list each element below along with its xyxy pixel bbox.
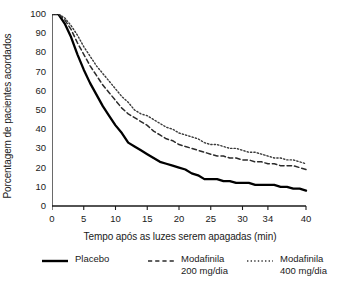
y-axis-tick-label: 60 (24, 85, 46, 96)
x-axis-tick-label: 40 (294, 213, 318, 224)
y-axis-tick-label: 10 (24, 181, 46, 192)
x-axis-tick-label: 30 (231, 213, 255, 224)
chart-plot-svg (52, 14, 310, 212)
x-axis-tick-label: 0 (40, 213, 64, 224)
axes-group (52, 14, 306, 210)
y-axis-tick-label: 70 (24, 66, 46, 77)
legend-entry-modafinil-200: Modafinila 200 mg/dia (148, 253, 256, 285)
x-axis-tick-label: 10 (104, 213, 128, 224)
legend-entry-placebo: Placebo (42, 253, 152, 285)
y-axis-tick-label: 30 (24, 142, 46, 153)
legend-entry-modafinil-400: Modafinila 400 mg/dia (247, 253, 346, 285)
y-axis-title: Porcentagem de pacientes acordados (0, 9, 16, 223)
x-axis-tick-label: 25 (199, 213, 223, 224)
chart-legend: Placebo Modafinila 200 mg/dia Modafinila (0, 253, 346, 287)
x-axis-tick-label: 15 (135, 213, 159, 224)
data-series-group (52, 14, 306, 191)
legend-line-sample-dotted (247, 259, 273, 262)
y-axis-tick-label: 0 (24, 200, 46, 211)
y-axis-tick-label: 20 (24, 162, 46, 173)
legend-label-modafinil-200: Modafinila 200 mg/dia (181, 253, 228, 277)
series-line-2 (52, 14, 306, 170)
plot-area (52, 14, 310, 212)
legend-line-sample-dashed (148, 259, 174, 262)
y-axis-tick-label: 40 (24, 123, 46, 134)
y-axis-tick-label: 90 (24, 27, 46, 38)
y-axis-tick-label: 100 (24, 8, 46, 19)
x-axis-tick-label: 34 (256, 213, 280, 224)
legend-line-sample-solid (42, 259, 68, 262)
x-axis-tick-label: 20 (167, 213, 191, 224)
x-axis-tick-label: 5 (72, 213, 96, 224)
chart-figure: Porcentagem de pacientes acordados 01020… (0, 0, 346, 287)
y-axis-tick-label: 50 (24, 104, 46, 115)
series-line-3 (52, 14, 306, 164)
legend-label-placebo: Placebo (75, 253, 109, 265)
x-axis-title: Tempo após as luzes serem apagadas (min) (34, 230, 326, 243)
legend-label-modafinil-400: Modafinila 400 mg/dia (280, 253, 327, 277)
y-axis-tick-label: 80 (24, 46, 46, 57)
